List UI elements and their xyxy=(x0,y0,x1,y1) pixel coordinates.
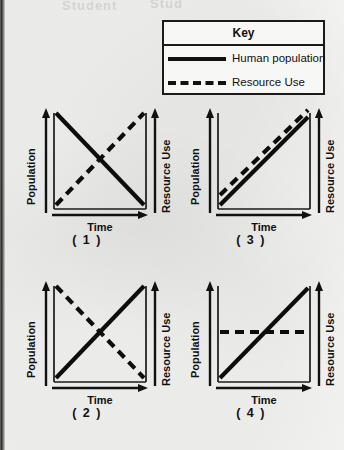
key-legend-box: Key Human population Resource Use xyxy=(162,20,325,95)
series-resource-use-3 xyxy=(220,110,308,195)
ghost-bleed-text-1: Student xyxy=(62,0,117,13)
graph-4-number: ( 4 ) xyxy=(186,406,316,420)
page-left-scan-edge xyxy=(0,0,5,450)
graph-1-figure: Population Resource Use Time xyxy=(22,105,172,235)
key-entry-resource-use: Resource Use xyxy=(164,70,323,94)
scanned-page: Student Stud Key Human population Resour… xyxy=(0,0,344,450)
y-left-label-3: Population xyxy=(189,148,201,205)
y-left-axis-4 xyxy=(206,281,214,386)
x-axis-3 xyxy=(216,211,312,219)
y-right-label-2: Resource Use xyxy=(160,313,172,386)
x-label-1: Time xyxy=(87,221,112,233)
key-title: Key xyxy=(232,26,254,40)
y-left-axis-3 xyxy=(206,108,214,213)
graph-1-number: ( 1 ) xyxy=(22,233,152,247)
x-axis-4 xyxy=(216,384,312,392)
key-entry-label: Human population xyxy=(232,52,325,64)
graph-2-number: ( 2 ) xyxy=(22,406,152,420)
graph-panel-2: Population Resource Use Time ( 2 ) xyxy=(22,278,172,438)
x-label-4: Time xyxy=(251,394,276,406)
y-right-label-3: Resource Use xyxy=(324,140,336,213)
y-left-label-1: Population xyxy=(25,148,37,205)
solid-line-sample-icon xyxy=(168,53,226,63)
graph-2-figure: Population Resource Use Time xyxy=(22,278,172,408)
graph-3-figure: Population Resource Use Time xyxy=(186,105,336,235)
graph-panel-3: Population Resource Use Time ( 3 ) xyxy=(186,105,336,265)
x-label-3: Time xyxy=(251,221,276,233)
x-axis-1 xyxy=(52,211,148,219)
dashed-line-sample-icon xyxy=(168,77,226,87)
y-left-label-4: Population xyxy=(189,321,201,378)
x-label-2: Time xyxy=(87,394,112,406)
series-human-population-3 xyxy=(220,117,308,205)
y-left-axis-2 xyxy=(42,281,50,386)
graph-panel-4: Population Resource Use Time ( 4 ) xyxy=(186,278,336,438)
y-right-axis-4 xyxy=(315,281,323,386)
y-right-label-4: Resource Use xyxy=(324,313,336,386)
y-left-label-2: Population xyxy=(25,321,37,378)
graph-4-figure: Population Resource Use Time xyxy=(186,278,336,408)
graph-3-number: ( 3 ) xyxy=(186,233,316,247)
key-title-row: Key xyxy=(164,22,323,46)
key-entry-label: Resource Use xyxy=(232,76,305,88)
x-axis-2 xyxy=(52,384,148,392)
ghost-bleed-text-2: Stud xyxy=(150,0,183,11)
y-right-axis-3 xyxy=(315,108,323,213)
y-left-axis-1 xyxy=(42,108,50,213)
graph-panel-1: Population Resource Use Time ( 1 ) xyxy=(22,105,172,265)
y-right-axis-1 xyxy=(151,108,159,213)
y-right-axis-2 xyxy=(151,281,159,386)
key-entry-human-population: Human population xyxy=(164,46,323,70)
series-human-population-4 xyxy=(220,288,308,378)
y-right-label-1: Resource Use xyxy=(160,140,172,213)
